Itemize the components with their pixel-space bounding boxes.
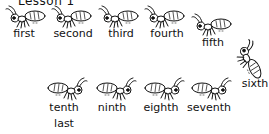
ant-second-icon: [52, 6, 92, 28]
ant-fifth-icon: [192, 14, 232, 36]
ant-label-second: second: [53, 27, 92, 40]
ant-eighth-icon: [144, 78, 184, 100]
ant-ninth-icon: [96, 78, 136, 100]
ant-label-fourth: fourth: [150, 27, 183, 40]
ant-label-sixth: sixth: [242, 77, 269, 90]
ant-fourth-icon: [145, 6, 185, 28]
ant-first-icon: [6, 6, 46, 28]
ant-label-third: third: [108, 27, 134, 40]
ant-label-last: last: [54, 117, 74, 130]
ant-label-first: first: [13, 27, 35, 40]
ant-tenth-icon: [47, 78, 87, 100]
ant-label-fifth: fifth: [202, 36, 224, 49]
ant-third-icon: [99, 6, 139, 28]
ant-label-seventh: seventh: [187, 101, 231, 114]
ant-seventh-icon: [191, 78, 231, 100]
ant-label-tenth: tenth: [49, 101, 78, 114]
ant-label-ninth: ninth: [98, 101, 126, 114]
ant-label-eighth: eighth: [143, 101, 178, 114]
